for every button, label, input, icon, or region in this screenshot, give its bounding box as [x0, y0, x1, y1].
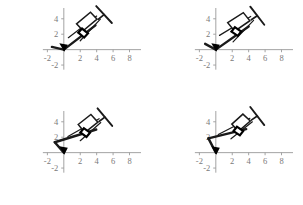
x-tick-label: 2	[78, 156, 82, 166]
y-tick-label: -2	[51, 163, 58, 173]
panel-bottom-right: -2246842-2	[152, 103, 303, 205]
x-tick-label: 4	[246, 53, 251, 63]
y-tick-label: 4	[54, 116, 59, 126]
y-tick-label: -2	[203, 60, 210, 70]
panel-top-left: -2246842-2	[0, 0, 151, 102]
x-tick-label: 6	[111, 156, 115, 166]
x-tick-label: 4	[95, 53, 100, 63]
x-tick-label: 6	[262, 53, 266, 63]
x-tick-label: 6	[262, 156, 266, 166]
panel-top-left-plot: -2246842-2	[0, 0, 151, 102]
y-tick-label: 4	[54, 14, 59, 24]
x-tick-label: -2	[195, 53, 202, 63]
y-tick-label: 4	[206, 14, 211, 24]
x-tick-label: 2	[230, 156, 234, 166]
x-tick-label: -2	[44, 156, 51, 166]
y-tick-label: -2	[203, 163, 210, 173]
figure-panel-grid: -2246842-2-2246842-2-2246842-2-2246842-2	[0, 0, 303, 205]
plunger-handle-stem	[98, 15, 104, 20]
x-tick-label: 2	[78, 53, 82, 63]
plunger-handle-stem	[251, 116, 257, 120]
panel-bottom-left-plot: -2246842-2	[0, 103, 151, 205]
x-tick-label: 8	[127, 156, 131, 166]
x-tick-label: 4	[246, 156, 251, 166]
x-tick-label: 4	[95, 156, 100, 166]
x-tick-label: 8	[279, 156, 283, 166]
panel-top-right: -2246842-2	[152, 0, 303, 102]
panel-bottom-left: -2246842-2	[0, 103, 151, 205]
x-tick-label: -2	[44, 53, 51, 63]
y-tick-label: 4	[206, 116, 211, 126]
syringe-barrel	[77, 12, 98, 31]
y-tick-label: 2	[54, 29, 58, 39]
x-tick-label: 6	[111, 53, 115, 63]
panel-bottom-right-plot: -2246842-2	[152, 103, 303, 205]
y-tick-label: 2	[206, 29, 210, 39]
plunger-handle-stem	[251, 16, 257, 20]
y-tick-label: -2	[51, 60, 58, 70]
x-tick-label: 8	[127, 53, 131, 63]
x-tick-label: 2	[230, 53, 234, 63]
panel-top-right-plot: -2246842-2	[152, 0, 303, 102]
x-tick-label: -2	[195, 156, 202, 166]
plunger-handle-stem	[99, 117, 105, 121]
x-tick-label: 8	[279, 53, 283, 63]
